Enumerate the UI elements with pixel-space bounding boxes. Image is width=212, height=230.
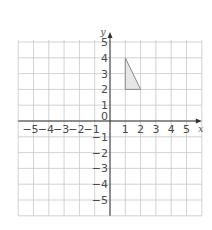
y-tick-label: 3 — [101, 68, 108, 81]
y-tick-label: −5 — [92, 194, 108, 207]
x-tick-label: 5 — [183, 123, 190, 136]
x-tick-label: 3 — [152, 123, 159, 136]
y-axis-label: y — [99, 27, 106, 37]
y-tick-label: −4 — [92, 178, 108, 191]
y-tick-label: −3 — [92, 162, 108, 175]
x-tick-label: 2 — [137, 123, 144, 136]
x-tick-label: −4 — [38, 123, 54, 136]
coordinate-grid: −5−4−3−2−11234554321−1−2−3−4−50xy — [0, 0, 212, 230]
tick-labels: −5−4−3−2−11234554321−1−2−3−4−50xy — [22, 27, 203, 207]
y-axis-arrow-icon — [108, 32, 113, 38]
x-axis-label: x — [198, 124, 203, 134]
x-tick-label: −3 — [53, 123, 69, 136]
y-tick-label: 2 — [101, 83, 108, 96]
y-tick-label: −2 — [92, 147, 108, 160]
x-tick-label: −2 — [68, 123, 84, 136]
x-tick-label: 1 — [122, 123, 129, 136]
y-tick-label: 4 — [101, 52, 108, 65]
x-axis-arrow-icon — [196, 119, 202, 124]
y-tick-label: 5 — [101, 36, 108, 49]
x-tick-label: −5 — [22, 123, 38, 136]
x-tick-label: 4 — [168, 123, 175, 136]
origin-label: 0 — [101, 110, 108, 123]
y-tick-label: −1 — [92, 131, 108, 144]
